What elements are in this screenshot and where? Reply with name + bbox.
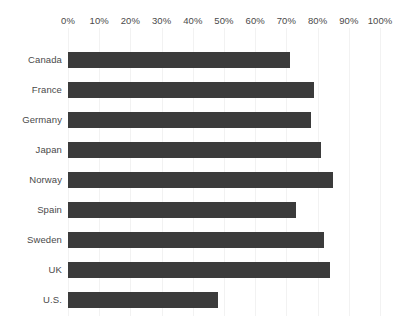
bar[interactable] xyxy=(68,292,218,308)
x-tick-label: 30% xyxy=(152,14,171,28)
bar-category-label: Japan xyxy=(0,135,62,165)
bar-row: U.S. xyxy=(0,285,410,315)
bar-track xyxy=(68,255,380,285)
bar-track xyxy=(68,135,380,165)
plot-area: CanadaFranceGermanyJapanNorwaySpainSwede… xyxy=(0,45,410,315)
bar-chart: 0%10%20%30%40%50%60%70%80%90%100% Canada… xyxy=(0,0,410,316)
x-axis: 0%10%20%30%40%50%60%70%80%90%100% xyxy=(0,14,410,28)
x-tick-label: 20% xyxy=(121,14,140,28)
bar-track xyxy=(68,225,380,255)
bar-track xyxy=(68,75,380,105)
bar-category-label: Spain xyxy=(0,195,62,225)
bar-category-label: UK xyxy=(0,255,62,285)
x-tick-label: 0% xyxy=(61,14,75,28)
bar-row: Norway xyxy=(0,165,410,195)
bar-track xyxy=(68,165,380,195)
bar-row: Spain xyxy=(0,195,410,225)
bar-category-label: U.S. xyxy=(0,285,62,315)
x-tick-label: 40% xyxy=(183,14,202,28)
bar-row: France xyxy=(0,75,410,105)
bar-row: Canada xyxy=(0,45,410,75)
x-tick-label: 100% xyxy=(368,14,393,28)
bar-row: UK xyxy=(0,255,410,285)
bar-track xyxy=(68,105,380,135)
bar-track xyxy=(68,285,380,315)
bar-row: Germany xyxy=(0,105,410,135)
x-tick-label: 60% xyxy=(246,14,265,28)
bar-row: Japan xyxy=(0,135,410,165)
bar[interactable] xyxy=(68,52,290,68)
x-tick-label: 90% xyxy=(339,14,358,28)
bar[interactable] xyxy=(68,82,314,98)
bar[interactable] xyxy=(68,202,296,218)
bar-row: Sweden xyxy=(0,225,410,255)
bar[interactable] xyxy=(68,232,324,248)
bar[interactable] xyxy=(68,172,333,188)
x-tick-label: 50% xyxy=(214,14,233,28)
bar-category-label: Sweden xyxy=(0,225,62,255)
bar-track xyxy=(68,195,380,225)
x-tick-label: 10% xyxy=(90,14,109,28)
bar-track xyxy=(68,45,380,75)
bar[interactable] xyxy=(68,142,321,158)
bar-category-label: Germany xyxy=(0,105,62,135)
x-tick-label: 80% xyxy=(308,14,327,28)
bar-category-label: France xyxy=(0,75,62,105)
bar-category-label: Canada xyxy=(0,45,62,75)
bar-category-label: Norway xyxy=(0,165,62,195)
bar[interactable] xyxy=(68,262,330,278)
bar[interactable] xyxy=(68,112,311,128)
x-tick-label: 70% xyxy=(277,14,296,28)
